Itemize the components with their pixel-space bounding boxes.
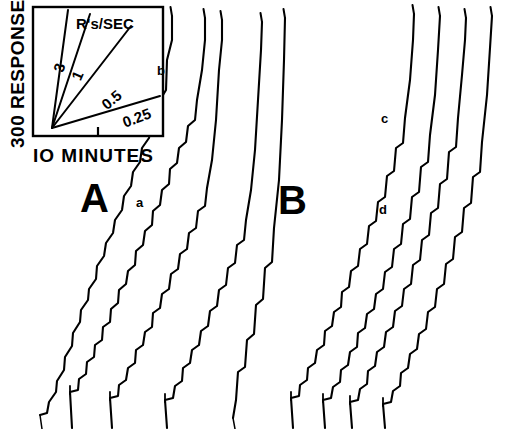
panel-B-label: B	[278, 180, 307, 220]
pen-reset-stroke	[40, 415, 42, 429]
record-end-pip	[221, 11, 223, 20]
record-label-b: b	[157, 64, 165, 77]
record-end-pip	[204, 9, 206, 18]
pen-reset-stroke	[233, 418, 235, 429]
trace-B2	[323, 16, 440, 428]
figure-canvas	[0, 0, 511, 429]
rate-units-label: R's/SEC	[76, 16, 134, 31]
record-end-pip	[261, 13, 263, 22]
x-axis-label: IO MINUTES	[33, 146, 154, 165]
trace-A4	[165, 22, 262, 428]
record-end-pip	[171, 7, 173, 16]
record-end-pip	[413, 5, 415, 14]
trace-B4	[383, 16, 492, 428]
record-end-pip	[284, 9, 286, 18]
cumulative-record-figure: 300 RESPONSES IO MINUTES R's/SEC 310.50.…	[0, 0, 511, 429]
record-label-c: c	[381, 112, 388, 125]
trace-B1	[291, 14, 414, 428]
panel-A-label: A	[80, 178, 109, 218]
record-label-d: d	[379, 203, 387, 216]
record-end-pip	[439, 7, 441, 16]
record-end-pip	[491, 7, 493, 16]
y-axis-label: 300 RESPONSES	[8, 0, 27, 148]
record-label-a: a	[136, 196, 143, 209]
record-end-pip	[465, 9, 467, 18]
